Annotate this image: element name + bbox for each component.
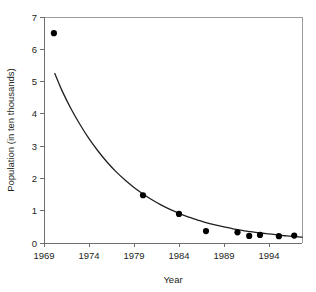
y-tick-label: 0 <box>32 238 37 249</box>
data-point <box>51 30 57 36</box>
population-year-chart: 01234567 196919741979198419891994 Year P… <box>0 0 316 292</box>
data-point <box>203 228 209 234</box>
y-tick-label: 4 <box>32 108 37 119</box>
chart-canvas: 01234567 196919741979198419891994 Year P… <box>0 0 316 292</box>
x-tick-label: 1994 <box>258 250 279 261</box>
y-tick-label: 3 <box>32 141 37 152</box>
data-point <box>176 211 182 217</box>
data-point <box>291 232 297 238</box>
x-tick-label: 1969 <box>33 250 54 261</box>
x-tick-label: 1984 <box>168 250 189 261</box>
x-tick-label: 1974 <box>78 250 99 261</box>
chart-background <box>0 0 316 292</box>
x-tick-label: 1989 <box>213 250 234 261</box>
y-tick-label: 7 <box>32 12 37 23</box>
y-tick-label: 6 <box>32 44 37 55</box>
data-point <box>246 233 252 239</box>
y-tick-label: 2 <box>32 173 37 184</box>
data-point <box>140 192 146 198</box>
data-point <box>276 233 282 239</box>
x-tick-label: 1979 <box>123 250 144 261</box>
x-axis-title: Year <box>163 274 182 285</box>
y-tick-label: 5 <box>32 76 37 87</box>
y-axis-title: Population (in ten thousands) <box>5 68 16 192</box>
y-tick-label: 1 <box>32 205 37 216</box>
data-point <box>234 229 240 235</box>
data-point <box>257 232 263 238</box>
